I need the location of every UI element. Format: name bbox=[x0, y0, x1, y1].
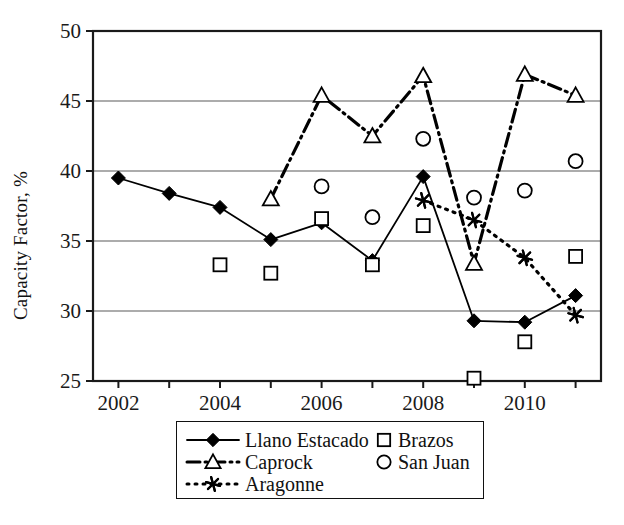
series-llano-estacado bbox=[111, 170, 582, 330]
marker-open-square bbox=[569, 250, 582, 263]
marker-filled-diamond bbox=[162, 186, 176, 200]
legend-label: Brazos bbox=[398, 429, 454, 451]
marker-open-circle bbox=[569, 154, 583, 168]
series-line bbox=[118, 177, 575, 323]
x-tick-label: 2004 bbox=[199, 391, 242, 415]
marker-open-circle bbox=[467, 191, 481, 205]
marker-open-circle bbox=[416, 132, 430, 146]
y-tick-label: 35 bbox=[60, 229, 81, 253]
marker-filled-diamond bbox=[569, 289, 583, 303]
marker-open-triangle bbox=[263, 191, 279, 205]
legend-label: Caprock bbox=[245, 451, 313, 474]
marker-filled-diamond bbox=[213, 200, 227, 214]
legend-entry[interactable]: Caprock bbox=[187, 451, 313, 474]
series-line bbox=[423, 200, 575, 315]
legend-entry[interactable]: Brazos bbox=[378, 429, 454, 451]
legend-label: Llano Estacado bbox=[245, 429, 369, 451]
legend-entry[interactable]: Llano Estacado bbox=[187, 429, 369, 451]
y-tick-label: 40 bbox=[60, 159, 81, 183]
legend-symbols: Llano EstacadoCaprockAragonneBrazosSan J… bbox=[177, 422, 483, 498]
marker-open-square bbox=[378, 434, 390, 446]
marker-open-triangle bbox=[314, 87, 330, 101]
marker-open-triangle bbox=[568, 87, 584, 101]
marker-open-square bbox=[264, 267, 277, 280]
marker-filled-diamond bbox=[111, 171, 125, 185]
marker-filled-diamond bbox=[518, 315, 532, 329]
marker-open-square bbox=[315, 212, 328, 225]
marker-open-circle bbox=[377, 455, 390, 468]
marker-open-square bbox=[468, 372, 481, 385]
x-tick-label: 2010 bbox=[504, 391, 546, 415]
marker-open-circle bbox=[365, 210, 379, 224]
series-caprock bbox=[263, 66, 584, 269]
marker-open-circle bbox=[315, 179, 329, 193]
y-tick-label: 45 bbox=[60, 89, 81, 113]
series-aragonne bbox=[416, 193, 583, 322]
x-tick-label: 2006 bbox=[301, 391, 343, 415]
x-tick-label: 2002 bbox=[97, 391, 139, 415]
capacity-factor-chart: Capacity Factor, % 253035404550200220042… bbox=[0, 0, 624, 525]
marker-filled-diamond bbox=[206, 433, 219, 446]
marker-open-square bbox=[214, 258, 227, 271]
legend-entry[interactable]: San Juan bbox=[377, 451, 469, 473]
y-tick-label: 25 bbox=[60, 369, 81, 393]
marker-filled-diamond bbox=[264, 233, 278, 247]
marker-asterisk bbox=[467, 213, 481, 227]
y-tick-label: 50 bbox=[60, 19, 81, 43]
marker-open-triangle bbox=[517, 66, 533, 80]
marker-open-square bbox=[366, 258, 379, 271]
legend: Llano EstacadoCaprockAragonneBrazosSan J… bbox=[176, 421, 484, 499]
marker-asterisk bbox=[518, 251, 532, 265]
marker-open-triangle bbox=[415, 68, 431, 82]
legend-label: Aragonne bbox=[245, 473, 324, 496]
marker-open-triangle bbox=[466, 255, 482, 269]
marker-asterisk bbox=[416, 193, 430, 207]
y-tick-label: 30 bbox=[60, 299, 81, 323]
marker-open-square bbox=[417, 219, 430, 232]
legend-entry[interactable]: Aragonne bbox=[187, 473, 324, 496]
marker-filled-diamond bbox=[416, 170, 430, 184]
legend-label: San Juan bbox=[398, 451, 470, 473]
x-tick-label: 2008 bbox=[402, 391, 444, 415]
marker-filled-diamond bbox=[467, 314, 481, 328]
marker-open-circle bbox=[518, 184, 532, 198]
marker-open-square bbox=[518, 335, 531, 348]
